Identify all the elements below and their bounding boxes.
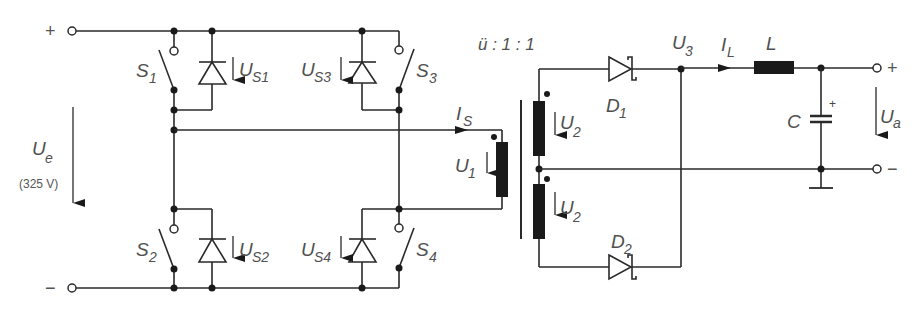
- d1-subscript: 1: [619, 105, 627, 121]
- d1-diode: [609, 57, 631, 81]
- us2-subscript: S2: [252, 249, 269, 265]
- us1-subscript: S1: [252, 69, 269, 85]
- s3-contact: [395, 46, 403, 54]
- capacitor-label: C: [787, 111, 801, 132]
- output-plus-terminal: [873, 64, 881, 72]
- input-voltage-arrow: U e (325 V): [19, 107, 73, 203]
- ue-value: (325 V): [19, 177, 58, 191]
- output-minus-sign: −: [887, 159, 898, 179]
- inductor-label: L: [766, 33, 777, 54]
- is-subscript: S: [463, 113, 473, 129]
- d2-subscript: 2: [623, 241, 632, 257]
- us2-label: U: [239, 239, 253, 260]
- ua-label: U: [880, 106, 894, 127]
- u1-label: U: [455, 155, 469, 176]
- s2-label: S: [136, 239, 149, 260]
- secondary-top-dot: [544, 91, 550, 97]
- right-leg: U S3 S 3 U S4 S 4: [301, 28, 502, 292]
- il-arrow: [718, 64, 731, 72]
- s2-contact: [170, 225, 178, 233]
- u1-subscript: 1: [468, 165, 476, 181]
- capacitor-polarity: +: [829, 97, 836, 111]
- inductor-l: [754, 61, 794, 74]
- us1-label: U: [239, 59, 253, 80]
- s3-label: S: [416, 60, 429, 81]
- is-label: I: [456, 103, 462, 124]
- u2-top-label: U: [560, 112, 574, 133]
- output-minus-terminal: [873, 165, 881, 173]
- secondary-bottom-dot: [544, 176, 550, 182]
- d1-label: D: [606, 95, 620, 116]
- s3-switch-blade: [399, 49, 414, 90]
- converter-schematic: + − U e (325 V) U S1 S 1: [0, 0, 918, 311]
- s1-contact: [170, 47, 178, 55]
- ue-label: U: [32, 138, 46, 159]
- us3-subscript: S3: [314, 69, 331, 85]
- u3-node: [678, 66, 685, 73]
- input-plus-terminal: [68, 27, 76, 35]
- s1-subscript: 1: [149, 70, 157, 86]
- turns-ratio-label: ü : 1 : 1: [478, 35, 535, 54]
- ds2-diode: [199, 239, 226, 262]
- us4-subscript: S4: [314, 249, 331, 265]
- secondary-winding-top: [533, 101, 545, 156]
- dc-rails: [76, 31, 399, 288]
- secondary-winding-bottom: [533, 184, 545, 239]
- output-plus-sign: +: [887, 58, 898, 78]
- us3-label: U: [301, 59, 315, 80]
- s2-subscript: 2: [148, 249, 157, 265]
- primary-winding: [496, 142, 508, 197]
- il-subscript: L: [727, 44, 735, 60]
- s4-subscript: 4: [429, 249, 437, 265]
- s1-label: S: [136, 60, 149, 81]
- u3-subscript: 3: [685, 43, 693, 59]
- ds1-diode: [199, 62, 226, 84]
- s4-contact: [395, 224, 403, 232]
- s4-label: S: [416, 239, 429, 260]
- input-minus-terminal: [68, 284, 76, 292]
- u2-bottom-subscript: 2: [572, 209, 581, 225]
- ds4-diode: [349, 239, 376, 262]
- ds3-diode: [349, 62, 376, 83]
- s2-switch-blade: [159, 229, 174, 269]
- ua-subscript: a: [893, 115, 901, 131]
- s4-switch-blade: [399, 228, 414, 268]
- d2-label: D: [611, 231, 625, 252]
- us4-label: U: [301, 239, 315, 260]
- ue-subscript: e: [45, 150, 53, 166]
- left-leg: U S1 S 1 U S2 S 2: [136, 28, 269, 292]
- d2-diode: [609, 255, 631, 279]
- input-minus-sign: −: [45, 278, 56, 298]
- u3-label: U: [672, 32, 686, 53]
- u2-bottom-label: U: [560, 197, 574, 218]
- input-plus-sign: +: [45, 21, 56, 41]
- u2-top-subscript: 2: [572, 124, 581, 140]
- s3-subscript: 3: [429, 70, 437, 86]
- output-filter: I L L + C + − U a: [681, 33, 901, 188]
- s1-switch-blade: [159, 50, 174, 90]
- rectifier: D 1 D 2 U 3: [539, 32, 693, 279]
- primary-dot: [491, 134, 497, 140]
